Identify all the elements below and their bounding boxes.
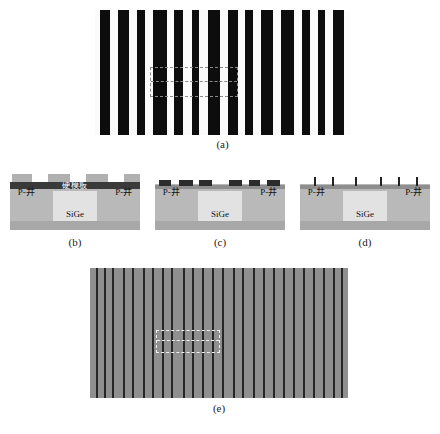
stripe: [100, 10, 110, 135]
p-well-left-label: P-井: [308, 187, 325, 197]
panel-e-caption: (e): [90, 402, 348, 414]
region-of-interest-box: [156, 330, 220, 353]
stripe: [293, 268, 295, 398]
region-box-divider: [151, 81, 237, 82]
stripe: [303, 268, 305, 398]
stripe: [233, 268, 235, 398]
stripe: [263, 268, 265, 398]
pattern-block: [229, 180, 242, 186]
pattern-block: [179, 180, 193, 186]
pillar: [355, 177, 357, 186]
pillar: [398, 177, 400, 186]
stripe: [283, 268, 285, 398]
stripe: [313, 268, 315, 398]
panel-b-caption: (b): [10, 236, 140, 248]
substrate-base-layer: [155, 221, 285, 230]
pillar: [380, 177, 382, 186]
stripe: [123, 268, 125, 398]
p-well-left-label: P-井: [163, 187, 180, 197]
p-well-left-label: P-井: [18, 187, 35, 197]
resist-block: [124, 174, 140, 182]
stripe: [137, 10, 145, 135]
pillar: [314, 177, 316, 186]
sige-label: SiGe: [155, 209, 285, 219]
pattern-block: [199, 180, 212, 186]
panel-a-caption: (a): [95, 138, 350, 150]
region-of-interest-box: [150, 67, 238, 97]
stripe: [333, 268, 335, 398]
panel-e-image: [90, 268, 348, 398]
p-well-right-label: P-井: [115, 187, 132, 197]
stripe: [96, 268, 98, 398]
substrate-base-layer: [10, 221, 140, 230]
stripe: [261, 10, 273, 135]
p-well-right-label: P-井: [260, 187, 277, 197]
stripe: [302, 10, 310, 135]
stripe: [281, 10, 294, 135]
panel-d-caption: (d): [300, 236, 430, 248]
resist-block: [48, 174, 70, 182]
stripe: [318, 10, 325, 135]
sige-label: SiGe: [10, 209, 140, 219]
stripe: [323, 268, 325, 398]
stripe: [245, 10, 253, 135]
stripe: [143, 268, 145, 398]
p-well-right-label: P-井: [405, 187, 422, 197]
pillar: [332, 177, 334, 186]
stripe: [341, 268, 343, 398]
stripe: [333, 10, 344, 135]
stripe: [132, 268, 134, 398]
stripe: [152, 268, 154, 398]
stripe: [104, 268, 106, 398]
panel-b-cross-section: 硬模板 P-井 P-井 SiGe: [10, 172, 140, 230]
panel-d-cross-section: P-井 P-井 SiGe: [300, 172, 430, 230]
stripe: [253, 268, 255, 398]
pattern-block: [267, 180, 280, 186]
stripe: [118, 10, 129, 135]
figure-root: (a) 硬模板 P-井 P-井 SiGe (b) P-井 P-井 SiGe (c…: [0, 0, 440, 434]
stripe: [222, 268, 224, 398]
region-box-divider: [157, 340, 219, 341]
sige-label: SiGe: [300, 209, 430, 219]
panel-c-caption: (c): [155, 236, 285, 248]
stripe: [242, 268, 244, 398]
resist-block: [86, 174, 108, 182]
substrate-base-layer: [300, 221, 430, 230]
pillar: [416, 177, 418, 186]
panel-a-image: [95, 10, 350, 135]
resist-block: [12, 174, 32, 182]
panel-c-cross-section: P-井 P-井 SiGe: [155, 172, 285, 230]
pattern-block: [159, 180, 171, 186]
pattern-block: [249, 180, 260, 186]
stripe: [112, 268, 114, 398]
stripe: [273, 268, 275, 398]
